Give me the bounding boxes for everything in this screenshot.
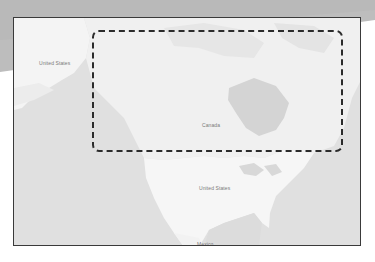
map-view[interactable]: United States Canada United States Mexic…	[13, 17, 361, 246]
label-mexico: Mexico	[197, 241, 213, 246]
canada-highlight-box	[92, 30, 343, 152]
label-alaska-united-states: United States	[39, 60, 70, 66]
label-united-states: United States	[199, 185, 230, 191]
